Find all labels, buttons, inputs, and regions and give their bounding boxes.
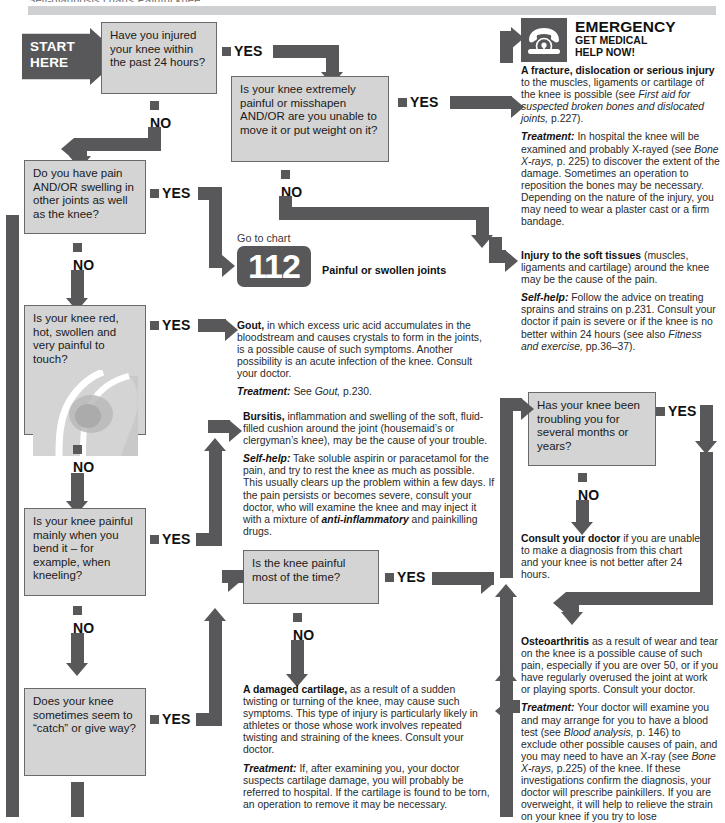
yes-marker-square [150,715,159,724]
yes-text: YES [162,186,191,200]
q5-no-connector [71,633,84,665]
q6-no-connector [291,640,304,676]
q5-no-arrowhead [66,663,88,676]
right-return-rail-arrowhead-2 [495,668,517,681]
q2-no-connector-right [279,207,489,220]
q6-yes-label: YES [385,570,426,584]
cartilage-treatment-label: Treatment: [243,763,297,774]
q3-no-connector [71,270,84,300]
question-box-q7[interactable]: Does your knee sometimes seem to “catch”… [24,688,146,776]
question-box-q5[interactable]: Is your knee painful mainly when you ben… [24,508,146,596]
page-left-spine [6,215,19,817]
cartilage-bold: A damaged cartilage, [243,684,347,695]
emergency-title: EMERGENCY [575,18,725,35]
question-box-q4[interactable]: Is your knee red, hot, swollen and very … [24,305,146,435]
soft-tissue-selfhelp-p2: pp.36–37). [583,341,636,352]
bursitis-selfhelp-label: Self-help: [243,453,290,464]
soft-tissue-arrowhead [505,250,518,272]
consult-advice: Consult your doctor if you are unable to… [521,533,701,581]
no-text: NO [73,460,94,474]
osteo-treatment-italic-1: Blood analysis, [564,727,634,738]
osteo-bold: Osteoarthritis [521,636,589,647]
gout-treatment-p1: See [291,386,315,397]
goto-chart-label: Go to chart [237,232,290,244]
cartilage-advice: A damaged cartilage, as a result of a su… [243,684,490,811]
soft-tissue-bold: Injury to the soft tissues [521,250,641,261]
yes-marker-square [656,407,665,416]
q8-inflow-arrowhead [521,398,534,420]
q2-yes-connector [450,96,512,109]
q1-no-connector-down [74,138,87,158]
q1-no-connector-left [74,138,161,151]
osteoarthritis-advice: Osteoarthritis as a result of wear and t… [521,636,719,823]
q8-yes-connector-down [700,405,713,443]
osteo-inflow-horizontal [566,592,713,605]
q7-yes-label: YES [150,712,191,726]
gout-treatment-p2: p.230. [340,386,372,397]
q8-no-connector [576,500,589,524]
gout-bold: Gout, [237,320,264,331]
bursitis-inflow-bar [208,420,230,433]
q8-no-label: NO [578,468,599,502]
emergency-treatment-label: Treatment: [521,131,575,142]
bursitis-arrowhead [229,420,242,442]
osteo-inflow-down [566,592,579,614]
q2-yes-label: YES [398,95,439,109]
q5-yes-connector-up [209,450,222,546]
yes-text: YES [397,570,426,584]
q3-yes-label: YES [150,186,191,200]
q3-no-label: NO [73,238,94,272]
q8-yes-connector-long [700,452,713,592]
q6-inflow-arrowhead [228,570,241,592]
emergency-diagnosis-tail: p.227). [548,113,583,124]
q1-yes-label: YES [222,44,263,58]
no-marker-square [73,445,82,454]
bursitis-advice: Bursitis, inflammation and swelling of t… [243,411,495,538]
question-box-q2[interactable]: Is your knee extremely painful or missha… [231,76,389,162]
yes-marker-square [150,189,159,198]
q5-no-label: NO [73,601,94,635]
q5-yes-arrowhead [204,438,226,451]
q8-inflow-vertical [500,398,513,578]
q8-inflow-elbow [500,398,522,411]
q7-no-connector [71,782,84,817]
question-box-q8[interactable]: Has your knee been troubling you for sev… [528,392,656,466]
chart-number-badge[interactable]: 112 [237,246,311,287]
chart-title-label: Painful or swollen joints [322,264,446,276]
gout-advice: Gout, in which excess uric acid accumula… [237,320,487,399]
q4-no-label: NO [73,440,94,474]
q3-yes-arrowhead [222,255,235,277]
emergency-heading: EMERGENCY GET MEDICAL HELP NOW! [575,18,725,58]
emergency-subtitle-1: GET MEDICAL [575,35,725,47]
yes-marker-square [150,535,159,544]
q8-yes-label: YES [656,404,697,418]
q3-yes-connector-down2 [209,222,222,268]
yes-text: YES [668,404,697,418]
emergency-advice: A fracture, dislocation or serious injur… [521,65,721,228]
emergency-diagnosis-bold: A fracture, dislocation or serious injur… [521,65,715,76]
yes-text: YES [234,44,263,58]
right-return-rail-lower [500,596,513,817]
q5-yes-label: YES [150,532,191,546]
right-return-rail-arrowhead-1 [495,584,517,597]
q4-no-connector [71,473,84,503]
q2-no-label: NO [281,165,302,199]
q1-no-label: NO [150,96,171,130]
gout-treatment-label: Treatment: [237,386,291,397]
q1-yes-connector-down [326,45,339,73]
q4-yes-label: YES [150,318,191,332]
yes-text: YES [162,532,191,546]
q6-no-label: NO [293,608,314,642]
no-marker-square [281,170,290,179]
yes-marker-square [222,47,231,56]
q2-no-connector-down [476,207,489,237]
question-box-q6[interactable]: Is the knee painful most of the time? [243,550,379,604]
question-q4-text: Is your knee red, hot, swollen and very … [33,312,138,366]
question-box-q1[interactable]: Have you injured your knee within the pa… [101,22,217,94]
question-box-q3[interactable]: Do you have pain AND/OR swelling in othe… [24,160,146,234]
gout-rest: in which excess uric acid accumulates in… [237,320,482,379]
yes-text: YES [162,318,191,332]
no-marker-square [150,101,159,110]
q7-yes-connector-up [209,620,222,726]
soft-tissue-advice: Injury to the soft tissues (muscles, lig… [521,250,721,353]
